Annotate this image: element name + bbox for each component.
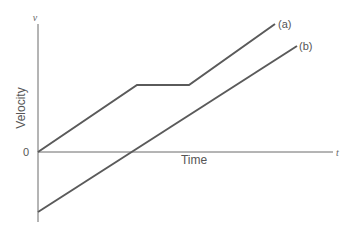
series-a-label: (a) bbox=[278, 18, 291, 30]
velocity-time-chart: v t 0 Velocity Time (a) (b) bbox=[0, 0, 355, 228]
series-a-line bbox=[38, 24, 275, 152]
y-axis-symbol: v bbox=[33, 12, 38, 23]
x-axis-symbol: t bbox=[336, 147, 339, 158]
series-b-label: (b) bbox=[299, 40, 312, 52]
series-b-line bbox=[38, 46, 297, 212]
origin-label: 0 bbox=[23, 146, 29, 158]
x-axis-title: Time bbox=[181, 153, 208, 167]
y-axis-title: Velocity bbox=[14, 87, 28, 128]
